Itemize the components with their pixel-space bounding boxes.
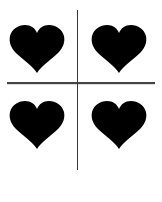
vertical-divider <box>77 10 78 170</box>
heart-icon <box>9 24 65 74</box>
heart-icon <box>91 100 147 150</box>
heart-icon <box>91 24 147 74</box>
heart-icon <box>9 100 65 150</box>
horizontal-divider <box>7 82 155 84</box>
heart-grid-figure <box>0 0 162 202</box>
